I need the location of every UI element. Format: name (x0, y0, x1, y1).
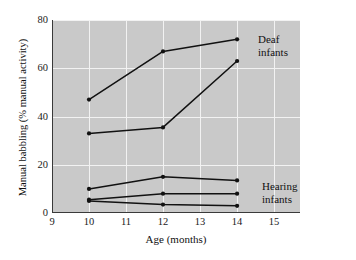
data-point-deaf-1-10 (87, 98, 91, 102)
data-point-deaf-2-14 (235, 59, 239, 63)
data-point-deaf-1-12 (161, 49, 165, 53)
data-point-hearing-3-14 (235, 204, 239, 208)
deaf-annotation-line1: Deaf (258, 33, 288, 46)
hearing-infants-annotation: Hearing infants (262, 180, 297, 205)
data-point-deaf-1-14 (235, 37, 239, 41)
data-point-hearing-2-12 (161, 192, 165, 196)
series-line-deaf-2 (89, 61, 237, 133)
data-point-deaf-2-10 (87, 131, 91, 135)
series-line-deaf-1 (89, 39, 237, 99)
data-point-hearing-1-14 (235, 178, 239, 182)
deaf-annotation-line2: infants (258, 46, 288, 59)
data-point-deaf-2-12 (161, 125, 165, 129)
data-point-hearing-3-12 (161, 203, 165, 207)
hearing-annotation-line2: infants (262, 193, 297, 206)
data-point-hearing-3-10 (87, 199, 91, 203)
deaf-infants-annotation: Deaf infants (258, 33, 288, 58)
series-plot (0, 0, 356, 260)
hearing-annotation-line1: Hearing (262, 180, 297, 193)
data-point-hearing-1-10 (87, 187, 91, 191)
data-point-hearing-1-12 (161, 175, 165, 179)
chart-figure: 020406080 9101112131415 Manual babbling … (0, 0, 356, 260)
data-point-hearing-2-14 (235, 192, 239, 196)
